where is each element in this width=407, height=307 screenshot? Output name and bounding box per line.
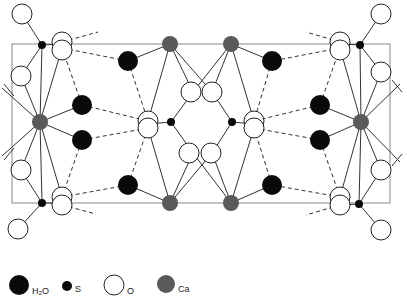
legend-label-o: O (127, 286, 134, 296)
water-molecule-icon (8, 274, 30, 296)
legend-item-o: O (103, 274, 134, 296)
calcium-atom-icon (156, 274, 176, 294)
calcium-atoms (32, 36, 369, 211)
legend-item-ca: Ca (156, 274, 190, 294)
water-molecules (72, 51, 330, 195)
hydrogen-bonds (62, 32, 340, 215)
sulfur-atoms (38, 41, 364, 208)
legend-item-s: S (61, 274, 81, 294)
unit-cell-outline (12, 44, 390, 203)
legend-label-ca: Ca (178, 284, 190, 294)
oxygen-atoms (8, 4, 391, 240)
crystal-structure-diagram (0, 0, 407, 270)
legend: H₂O S O Ca (0, 274, 407, 298)
legend-item-h2o: H₂O (8, 274, 49, 296)
oxygen-atom-icon (103, 274, 125, 296)
legend-label-h2o: H₂O (32, 286, 49, 296)
sulfur-atom-icon (61, 274, 73, 294)
legend-label-s: S (75, 284, 81, 294)
